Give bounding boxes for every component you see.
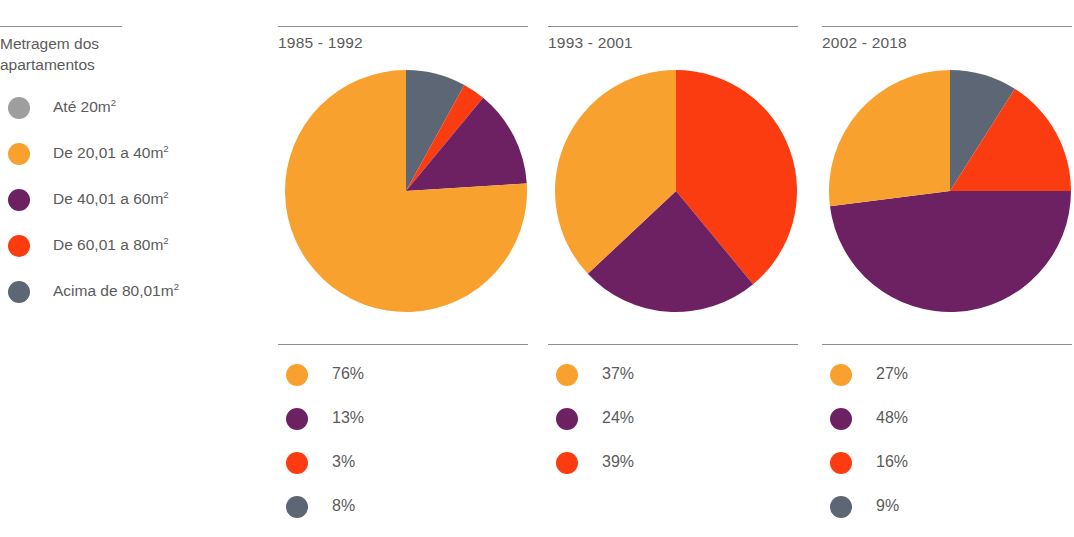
percent-value: 37% <box>602 362 634 386</box>
column-bottom-rule <box>548 344 798 345</box>
legend-item-label: De 40,01 a 60m2 <box>53 188 169 210</box>
percent-value: 16% <box>876 450 908 474</box>
legend-item-de-60-01-a-80m2: De 60,01 a 80m2 <box>0 230 240 276</box>
percent-swatch-icon <box>286 408 308 430</box>
percent-row: 16% <box>822 448 1062 492</box>
percent-swatch-icon <box>556 364 578 386</box>
percent-row: 48% <box>822 404 1062 448</box>
percent-swatch-icon <box>556 452 578 474</box>
period-column-3: 2002 - 2018 27%48%16%9% <box>822 0 1072 537</box>
percent-list-1: 76%13%3%8% <box>278 360 518 536</box>
column-top-rule <box>822 26 1072 27</box>
pie-chart-1 <box>284 62 528 320</box>
legend-item-acima-de-80-01m2: Acima de 80,01m2 <box>0 276 240 322</box>
legend-item-de-20-01-a-40m2: De 20,01 a 40m2 <box>0 138 240 184</box>
percent-value: 9% <box>876 494 899 518</box>
percent-value: 27% <box>876 362 908 386</box>
legend-item-label: Até 20m2 <box>53 96 116 118</box>
percent-swatch-icon <box>830 496 852 518</box>
legend-item-label: Acima de 80,01m2 <box>53 280 179 302</box>
pie-slice <box>830 191 1071 312</box>
column-bottom-rule <box>822 344 1072 345</box>
legend-top-rule <box>0 26 122 27</box>
legend-heading-line2: apartamentos <box>0 54 200 75</box>
legend-item-unit-exponent: 2 <box>111 97 116 108</box>
legend-item-unit-exponent: 2 <box>174 281 179 292</box>
percent-swatch-icon <box>830 452 852 474</box>
column-title: 1993 - 2001 <box>548 34 633 52</box>
percent-value: 24% <box>602 406 634 430</box>
percent-value: 76% <box>332 362 364 386</box>
percent-value: 48% <box>876 406 908 430</box>
percent-swatch-icon <box>830 364 852 386</box>
pie-chart-2 <box>554 62 798 320</box>
percent-row: 27% <box>822 360 1062 404</box>
percent-value: 13% <box>332 406 364 430</box>
percent-list-3: 27%48%16%9% <box>822 360 1062 536</box>
percent-swatch-icon <box>286 496 308 518</box>
percent-swatch-icon <box>286 364 308 386</box>
percent-list-2: 37%24%39% <box>548 360 788 492</box>
column-bottom-rule <box>278 344 528 345</box>
percent-value: 8% <box>332 494 355 518</box>
legend-item-label: De 20,01 a 40m2 <box>53 142 169 164</box>
legend-swatch-icon <box>8 281 30 303</box>
pie-svg <box>284 62 528 320</box>
legend-item-unit-exponent: 2 <box>163 143 168 154</box>
legend-item-unit-exponent: 2 <box>163 189 168 200</box>
period-column-2: 1993 - 2001 37%24%39% <box>548 0 798 537</box>
legend-item-unit-exponent: 2 <box>163 235 168 246</box>
legend-list: Até 20m2De 20,01 a 40m2De 40,01 a 60m2De… <box>0 92 240 322</box>
legend-item-de-40-01-a-60m2: De 40,01 a 60m2 <box>0 184 240 230</box>
column-title: 2002 - 2018 <box>822 34 907 52</box>
percent-row: 9% <box>822 492 1062 536</box>
percent-row: 3% <box>278 448 518 492</box>
percent-row: 8% <box>278 492 518 536</box>
pie-slice <box>829 70 950 206</box>
infographic-root: Metragem dos apartamentos Até 20m2De 20,… <box>0 0 1074 537</box>
percent-swatch-icon <box>556 408 578 430</box>
column-top-rule <box>278 26 528 27</box>
percent-row: 37% <box>548 360 788 404</box>
percent-swatch-icon <box>286 452 308 474</box>
pie-svg <box>554 62 798 320</box>
percent-row: 13% <box>278 404 518 448</box>
legend-column: Metragem dos apartamentos Até 20m2De 20,… <box>0 0 250 537</box>
column-title: 1985 - 1992 <box>278 34 363 52</box>
percent-swatch-icon <box>830 408 852 430</box>
pie-svg <box>828 62 1072 320</box>
percent-value: 39% <box>602 450 634 474</box>
period-column-1: 1985 - 1992 76%13%3%8% <box>278 0 528 537</box>
legend-swatch-icon <box>8 97 30 119</box>
legend-swatch-icon <box>8 235 30 257</box>
pie-chart-3 <box>828 62 1072 320</box>
legend-item-ate-20m2: Até 20m2 <box>0 92 240 138</box>
legend-heading-line1: Metragem dos <box>0 33 200 54</box>
legend-heading: Metragem dos apartamentos <box>0 33 200 75</box>
percent-value: 3% <box>332 450 355 474</box>
column-top-rule <box>548 26 798 27</box>
legend-swatch-icon <box>8 143 30 165</box>
legend-swatch-icon <box>8 189 30 211</box>
legend-item-label: De 60,01 a 80m2 <box>53 234 169 256</box>
percent-row: 24% <box>548 404 788 448</box>
percent-row: 76% <box>278 360 518 404</box>
percent-row: 39% <box>548 448 788 492</box>
